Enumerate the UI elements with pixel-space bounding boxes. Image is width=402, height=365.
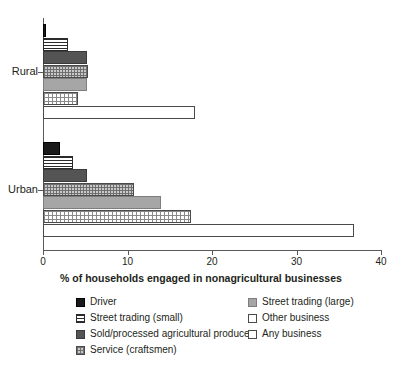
legend-item-any-business[interactable]: Any business [248, 328, 396, 340]
x-tick-label: 10 [122, 256, 133, 267]
bar-urban-other-business [43, 210, 191, 223]
legend-swatch-icon [248, 298, 257, 307]
bar-rural-street-trading-small [43, 38, 68, 51]
bar-urban-street-trading-large [43, 196, 161, 209]
x-axis-title: % of households engaged in nonagricultur… [0, 272, 402, 284]
legend-item-service-craftsmen[interactable]: Service (craftsmen) [76, 344, 248, 356]
y-category-label-urban: Urban [0, 183, 38, 195]
legend-item-label: Sold/processed agricultural produce [90, 328, 250, 340]
x-tick-label: 20 [206, 256, 217, 267]
legend-swatch-icon [248, 314, 257, 323]
horizontal-bar-chart: 010203040 RuralUrban % of households eng… [0, 0, 402, 365]
legend-item-label: Any business [262, 328, 321, 340]
x-tick [212, 250, 213, 255]
legend-swatch-icon [248, 330, 257, 339]
legend-item-street-trading-large[interactable]: Street trading (large) [248, 296, 396, 308]
bar-rural-sold-processed-agricultural-produce [43, 51, 87, 64]
legend-swatch-icon [76, 330, 85, 339]
bar-urban-street-trading-small [43, 156, 73, 169]
x-tick-label: 0 [40, 256, 46, 267]
x-tick-label: 30 [291, 256, 302, 267]
x-tick [297, 250, 298, 255]
legend: DriverStreet trading (large)Street tradi… [76, 294, 396, 358]
bar-rural-any-business [43, 106, 195, 119]
bar-rural-driver [43, 24, 46, 37]
legend-item-label: Service (craftsmen) [90, 344, 177, 356]
legend-item-driver[interactable]: Driver [76, 296, 248, 308]
x-tick [43, 250, 44, 255]
legend-swatch-icon [76, 314, 85, 323]
legend-swatch-icon [76, 346, 85, 355]
legend-item-street-trading-small[interactable]: Street trading (small) [76, 312, 248, 324]
bar-urban-sold-processed-agricultural-produce [43, 169, 87, 182]
legend-item-label: Street trading (small) [90, 312, 183, 324]
legend-item-label: Street trading (large) [262, 296, 354, 308]
legend-swatch-icon [76, 298, 85, 307]
bar-urban-any-business [43, 224, 354, 237]
y-category-label-rural: Rural [0, 65, 38, 77]
legend-item-other-business[interactable]: Other business [248, 312, 396, 324]
bar-rural-other-business [43, 92, 78, 105]
bar-urban-service-craftsmen [43, 183, 134, 196]
bar-rural-service-craftsmen [43, 65, 88, 78]
legend-item-label: Driver [90, 296, 117, 308]
x-tick [381, 250, 382, 255]
legend-item-label: Other business [262, 312, 329, 324]
x-tick [128, 250, 129, 255]
bar-rural-street-trading-large [43, 78, 87, 91]
x-tick-label: 40 [375, 256, 386, 267]
bar-urban-driver [43, 142, 60, 155]
legend-item-sold-processed-agricultural-produce[interactable]: Sold/processed agricultural produce [76, 328, 248, 340]
